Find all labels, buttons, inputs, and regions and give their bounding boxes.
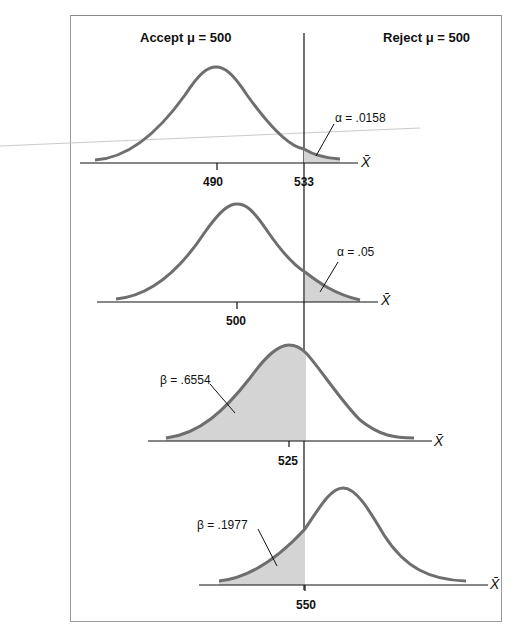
normal-curve — [95, 67, 340, 160]
x-bar-label: X̄ — [360, 154, 371, 170]
normal-curve — [219, 488, 466, 581]
x-bar-label: X̄ — [380, 292, 391, 308]
alpha-annotation: α = .05 — [337, 245, 375, 259]
tick-label-cutoff: 533 — [294, 175, 314, 189]
tick-label-mean: 500 — [226, 314, 246, 328]
diagram-canvas: Accept μ = 500 Reject μ = 500 490 533 X̄… — [0, 0, 521, 635]
x-bar-label: X̄ — [433, 433, 444, 449]
tick-label-cutoff: 550 — [296, 598, 316, 612]
panel-1: 490 533 X̄ α = .0158 — [80, 67, 386, 189]
reject-label: Reject μ = 500 — [383, 30, 470, 45]
annotation-leader — [316, 124, 334, 156]
panel-2: 500 X̄ α = .05 — [97, 204, 391, 328]
beta-annotation: β = .6554 — [160, 373, 211, 387]
tick-label-mean: 525 — [278, 454, 298, 468]
panel-4: 550 X̄ β = .1977 — [197, 488, 500, 612]
panel-3: 525 X̄ β = .6554 — [148, 345, 444, 468]
scan-artifact-line — [0, 128, 420, 146]
tick-label-mean: 490 — [203, 175, 223, 189]
x-bar-label: X̄ — [489, 576, 500, 592]
alpha-annotation: α = .0158 — [335, 111, 386, 125]
beta-annotation: β = .1977 — [197, 518, 248, 532]
accept-label: Accept μ = 500 — [140, 30, 231, 45]
